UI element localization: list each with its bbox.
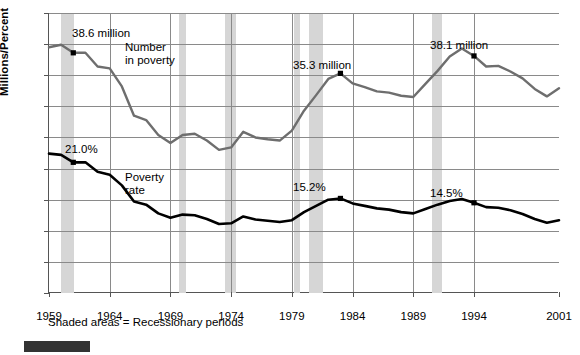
y-axis-title: Millions/Percent — [0, 8, 10, 96]
data-point-marker — [71, 160, 76, 165]
series-label-number-in-poverty: Number in poverty — [125, 41, 175, 67]
poverty-chart-figure: Millions/Percent 051015202530354045 1959… — [0, 0, 580, 355]
series-label-poverty-rate: Poverty rate — [125, 171, 164, 197]
bottom-cropped-bar — [24, 341, 90, 352]
x-tick-label: 1979 — [279, 310, 305, 322]
annotation-38-1-million: 38.1 million — [430, 39, 488, 51]
data-point-marker — [471, 53, 476, 58]
x-tick-mark — [559, 292, 560, 297]
x-tick-label: 1994 — [461, 310, 487, 322]
data-point-marker — [338, 71, 343, 76]
annotation-15-2-percent: 15.2% — [293, 181, 326, 193]
x-tick-label: 1984 — [340, 310, 366, 322]
annotation-21-0-percent: 21.0% — [65, 143, 98, 155]
x-tick-label: 1989 — [400, 310, 426, 322]
x-tick-label: 2001 — [546, 310, 572, 322]
footnote-recession-legend: Shaded areas = Recessionary periods — [48, 316, 243, 328]
data-point-marker — [338, 196, 343, 201]
plot-area: 051015202530354045 195919641969197419791… — [48, 13, 558, 293]
data-point-marker — [471, 200, 476, 205]
annotation-35-3-million: 35.3 million — [293, 59, 351, 71]
annotation-38-6-million: 38.6 million — [72, 27, 130, 39]
annotation-14-5-percent: 14.5% — [430, 187, 463, 199]
data-point-marker — [71, 50, 76, 55]
